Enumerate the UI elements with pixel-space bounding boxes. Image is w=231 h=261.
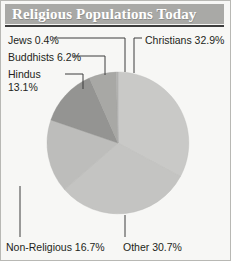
slice-label-christians: Christians 32.9% — [145, 34, 224, 47]
slice-label-non-religious: Non-Religious 16.7% — [6, 241, 105, 254]
slice-label-other: Other 30.7% — [123, 241, 182, 254]
slice-label-hindus: Hindus 13.1% — [8, 68, 62, 93]
pie-slices-group — [47, 72, 189, 214]
leader-line-christians — [134, 38, 142, 73]
chart-figure: Religious Populations Today — [0, 0, 231, 261]
slice-label-jews: Jews 0.4% — [8, 34, 59, 47]
slice-label-buddhists: Buddhists 6.2% — [8, 51, 81, 64]
